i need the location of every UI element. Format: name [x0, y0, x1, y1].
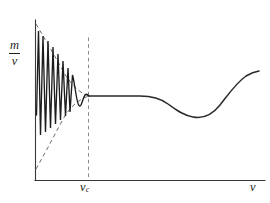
x-axis-label: v — [250, 181, 256, 194]
plateau-dip-rise-curve — [88, 71, 259, 118]
x-axis-tick-label-base: v — [80, 180, 86, 194]
y-axis-label-fraction: m v — [9, 39, 20, 68]
y-axis-label-denominator: v — [9, 55, 20, 69]
figure-canvas: m v vc v — [0, 0, 270, 203]
y-axis-label-numerator: m — [9, 39, 20, 53]
y-axis-label: m v — [9, 39, 20, 68]
plot-svg — [0, 0, 270, 203]
x-axis-tick-label-subscript: c — [86, 185, 90, 194]
lower-envelope-curve — [36, 96, 89, 169]
damped-oscillation-curve — [37, 31, 90, 135]
x-axis-tick-label-vc: vc — [80, 181, 89, 194]
x-axis-label-text: v — [250, 180, 256, 194]
